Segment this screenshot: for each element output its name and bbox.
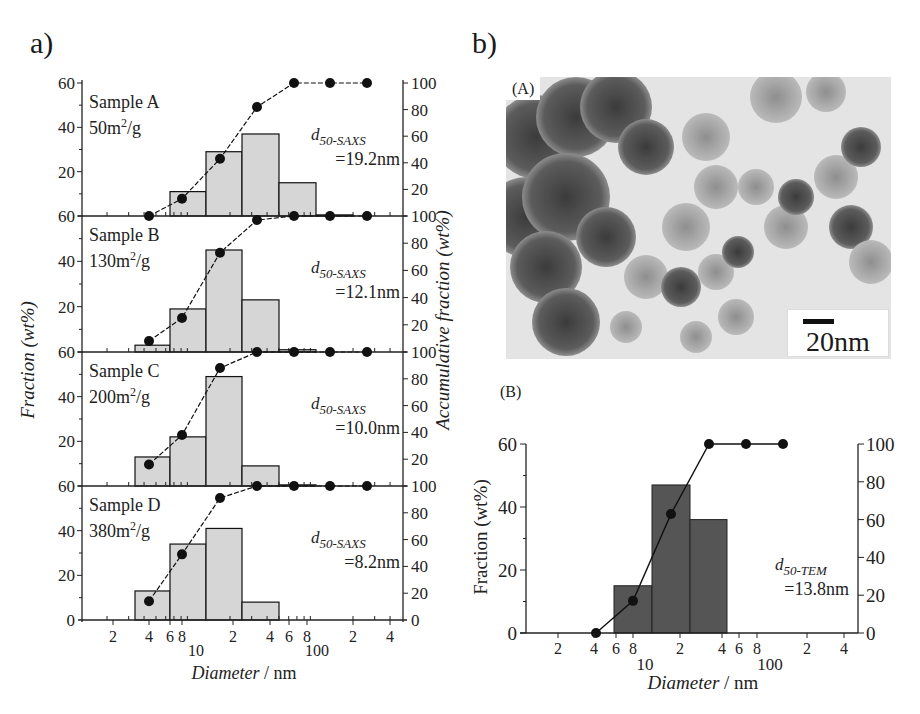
cumulative-point bbox=[215, 493, 225, 503]
cumulative-point bbox=[778, 439, 788, 449]
cumulative-point bbox=[144, 460, 154, 470]
y-tick-label: 40 bbox=[58, 388, 75, 407]
y-tick-label: 40 bbox=[58, 252, 75, 271]
svg-text:0: 0 bbox=[67, 611, 76, 630]
x-tick-label: 2 bbox=[554, 640, 562, 657]
y-tick-label: 40 bbox=[498, 497, 517, 518]
histogram-bar bbox=[652, 485, 690, 633]
d50-value: =12.1nm bbox=[335, 282, 400, 302]
x-tick-label: 4 bbox=[266, 628, 274, 645]
d50-label: d50-TEM bbox=[775, 555, 828, 578]
d50-value: =10.0nm bbox=[335, 418, 400, 438]
y-tick-label: 40 bbox=[58, 118, 75, 137]
y2-tick-label: 60 bbox=[411, 261, 428, 280]
cumulative-point bbox=[252, 347, 262, 357]
d50-value: =13.8nm bbox=[784, 579, 849, 599]
y2-tick-label: 40 bbox=[411, 557, 428, 576]
y2-tick-label: 0 bbox=[866, 623, 876, 644]
scale-bar-label: 20nm bbox=[806, 326, 870, 358]
cumulative-point bbox=[252, 215, 262, 225]
cumulative-point bbox=[289, 78, 299, 88]
cumulative-point bbox=[252, 481, 262, 491]
x-tick-label: 4 bbox=[145, 628, 153, 645]
x-tick-label: 2 bbox=[349, 628, 357, 645]
y2-tick-label: 20 bbox=[411, 316, 428, 335]
y-tick-label: 20 bbox=[58, 163, 75, 182]
scale-bar-box: 20nm bbox=[787, 309, 889, 357]
cumulative-point bbox=[177, 313, 187, 323]
x-tick-label: 6 bbox=[612, 640, 620, 657]
cumulative-point bbox=[177, 549, 187, 559]
y-tick-label: 20 bbox=[58, 566, 75, 585]
x-tick-label: 4 bbox=[590, 640, 598, 657]
y2-tick-label: 80 bbox=[866, 472, 885, 493]
cumulative-point bbox=[325, 347, 335, 357]
x-tick-label: 6 bbox=[285, 628, 293, 645]
histogram-bar bbox=[614, 586, 652, 633]
sample-title: Sample D bbox=[89, 495, 161, 515]
histogram-bar bbox=[690, 520, 727, 633]
y2-tick-label: 80 bbox=[411, 101, 428, 120]
left-y-axis-title: Fraction (wt%) bbox=[17, 301, 39, 420]
y2-tick-label: 40 bbox=[411, 423, 428, 442]
histogram-bar bbox=[242, 300, 279, 352]
y2-tick-label: 100 bbox=[866, 434, 895, 455]
surface-area: 130m2/g bbox=[89, 249, 150, 271]
d50-label: d50-SAXS bbox=[311, 258, 366, 281]
cumulative-point bbox=[704, 439, 714, 449]
y2-tick-label: 60 bbox=[411, 397, 428, 416]
x-tick-label: 4 bbox=[386, 628, 394, 645]
sample-title: Sample A bbox=[89, 92, 160, 112]
tem-histogram-chart: 0204060020406080100d50-TEM=13.8nm2468246… bbox=[460, 384, 920, 714]
y2-tick-label: 20 bbox=[411, 180, 428, 199]
histogram-bar bbox=[170, 192, 206, 216]
cumulative-point bbox=[362, 78, 372, 88]
y-tick-label: 60 bbox=[58, 207, 75, 226]
y2-tick-label: 60 bbox=[866, 510, 885, 531]
y2-tick-label: 80 bbox=[411, 504, 428, 523]
x-tick-label: 4 bbox=[718, 640, 726, 657]
y2-tick-label: 40 bbox=[411, 154, 428, 173]
histogram-bar bbox=[242, 134, 279, 216]
cumulative-point bbox=[177, 430, 187, 440]
y2-tick-label: 20 bbox=[411, 584, 428, 603]
x-axis-title: Diameter / nm bbox=[191, 663, 297, 683]
x-tick-label: 100 bbox=[757, 655, 783, 674]
x-tick-label: 100 bbox=[305, 642, 329, 659]
y2-tick-label: 60 bbox=[411, 531, 428, 550]
y2-tick-label: 100 bbox=[411, 74, 437, 93]
scale-bar bbox=[803, 319, 834, 324]
sample-panel-4: 60402010080604020Sample D380m2/gd50-SAXS… bbox=[58, 477, 437, 620]
sample-title: Sample B bbox=[89, 225, 160, 245]
cumulative-point bbox=[362, 347, 372, 357]
sample-panel-3: 60402010080604020Sample C200m2/gd50-SAXS… bbox=[58, 343, 437, 486]
cumulative-point bbox=[325, 481, 335, 491]
histogram-bar bbox=[135, 345, 170, 352]
y-tick-label: 60 bbox=[58, 477, 75, 496]
cumulative-point bbox=[628, 596, 638, 606]
y-tick-label: 0 bbox=[508, 623, 518, 644]
y2-tick-label: 100 bbox=[411, 477, 437, 496]
y-tick-label: 20 bbox=[498, 560, 517, 581]
histogram-bar bbox=[206, 528, 242, 620]
x-tick-label: 6 bbox=[735, 640, 743, 657]
cumulative-point bbox=[666, 509, 676, 519]
histogram-bar bbox=[206, 377, 242, 486]
y-tick-label: 20 bbox=[58, 432, 75, 451]
y-tick-label: 60 bbox=[58, 74, 75, 93]
cumulative-point bbox=[289, 211, 299, 221]
y-tick-label: 20 bbox=[58, 298, 75, 317]
x-tick-label: 6 bbox=[166, 628, 174, 645]
x-tick-label: 10 bbox=[188, 642, 204, 659]
y-tick-label: 40 bbox=[58, 522, 75, 541]
histogram-bar bbox=[170, 437, 206, 486]
d50-label: d50-SAXS bbox=[311, 528, 366, 551]
d50-label: d50-SAXS bbox=[311, 394, 366, 417]
cumulative-point bbox=[325, 211, 335, 221]
cumulative-point bbox=[362, 481, 372, 491]
svg-text:0: 0 bbox=[411, 611, 420, 630]
cumulative-point bbox=[252, 102, 262, 112]
y-tick-label: 60 bbox=[58, 343, 75, 362]
histogram-bar bbox=[170, 544, 206, 620]
d50-value: =8.2nm bbox=[344, 552, 400, 572]
